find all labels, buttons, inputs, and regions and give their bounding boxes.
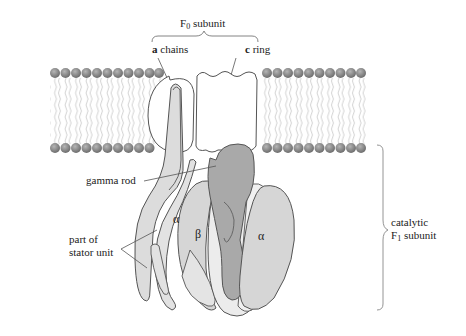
gamma-rod-label: gamma rod bbox=[86, 174, 136, 186]
membrane-left bbox=[50, 68, 164, 153]
f0-bracket bbox=[152, 31, 258, 42]
a-chains-label: a chains bbox=[152, 43, 188, 55]
f1-rest: subunit bbox=[401, 229, 436, 241]
alpha-left-label: α bbox=[173, 213, 179, 225]
alpha-right-label: α bbox=[258, 230, 264, 242]
membrane-right bbox=[262, 68, 366, 153]
catalytic-label-line2: F1 subunit bbox=[391, 229, 436, 241]
c-ring-label: c ring bbox=[245, 43, 270, 55]
c-rest: ring bbox=[250, 43, 270, 55]
catalytic-label-line1: catalytic bbox=[391, 216, 428, 228]
f0-subunit-label: F0 subunit bbox=[180, 17, 225, 29]
stator-label-line1: part of bbox=[69, 233, 98, 245]
a-rest: chains bbox=[158, 43, 189, 55]
f0-rest: subunit bbox=[190, 17, 225, 29]
f1-bracket bbox=[377, 145, 388, 310]
diagram-graphics bbox=[0, 0, 466, 336]
atp-synthase-diagram: F0 subunit a chains c ring gamma rod par… bbox=[0, 0, 466, 336]
beta-label: β bbox=[195, 228, 201, 240]
stator-label-line2: stator unit bbox=[69, 246, 113, 258]
c-ring-shape bbox=[196, 72, 257, 153]
